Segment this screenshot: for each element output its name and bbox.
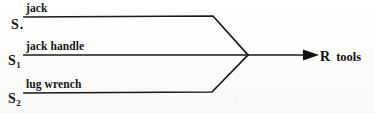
- source-node-jack: S.: [11, 16, 23, 34]
- source-node-lug-wrench: S2: [8, 90, 21, 108]
- edge-label-lug-wrench: lug wrench: [26, 79, 81, 91]
- diagram-screenshot: S. S1 S2 jack jack handle lug wrench Rto…: [0, 0, 374, 113]
- edge-label-jack: jack: [26, 3, 47, 15]
- source-subscript: 2: [16, 98, 21, 108]
- arrow-head-icon: [303, 50, 319, 61]
- target-label: tools: [336, 50, 361, 64]
- source-symbol: S: [8, 91, 16, 106]
- source-symbol: S: [8, 53, 16, 68]
- source-node-jack-handle: S1: [8, 52, 21, 70]
- source-subscript: 1: [16, 60, 21, 70]
- target-node-tools: Rtools: [320, 48, 361, 64]
- edge-label-jack-handle: jack handle: [26, 41, 84, 53]
- target-symbol: R: [320, 49, 330, 64]
- source-suffix: .: [20, 17, 24, 32]
- source-symbol: S: [11, 17, 19, 32]
- merge-flow-diagram-graphic: [0, 0, 374, 113]
